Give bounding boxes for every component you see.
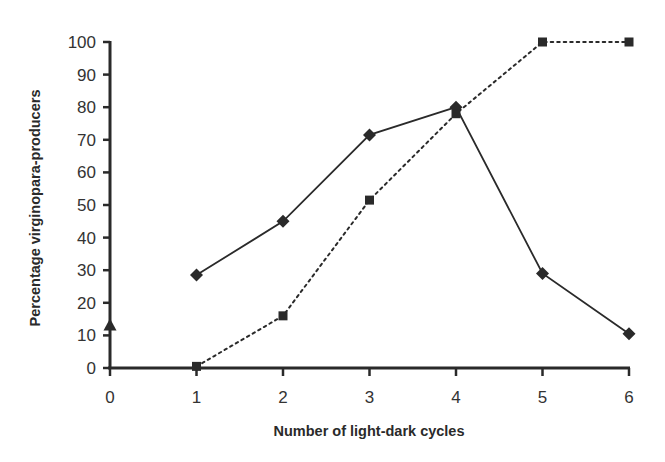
square-marker <box>365 196 374 205</box>
x-tick-label: 1 <box>192 388 201 407</box>
y-tick-label: 80 <box>77 98 96 117</box>
series-line <box>197 107 630 334</box>
series-square-dotted <box>192 38 634 371</box>
square-marker <box>538 38 547 47</box>
x-tick-label: 2 <box>278 388 287 407</box>
x-tick-label: 6 <box>624 388 633 407</box>
y-axis-ticks: 0102030405060708090100 <box>68 33 110 378</box>
diamond-marker <box>623 327 636 340</box>
x-tick-label: 3 <box>365 388 374 407</box>
y-tick-label: 90 <box>77 66 96 85</box>
y-tick-label: 10 <box>77 326 96 345</box>
x-tick-label: 0 <box>105 388 114 407</box>
y-tick-label: 20 <box>77 294 96 313</box>
y-tick-label: 70 <box>77 131 96 150</box>
diamond-marker <box>536 267 549 280</box>
square-marker <box>452 109 461 118</box>
triangle-marker <box>104 319 117 331</box>
square-marker <box>279 311 288 320</box>
series-line <box>197 42 630 366</box>
series-diamond-solid <box>190 101 636 341</box>
x-tick-label: 5 <box>538 388 547 407</box>
x-axis-ticks: 0123456 <box>105 368 633 407</box>
series-layer <box>104 38 636 371</box>
line-chart: 0102030405060708090100 0123456 Number of… <box>0 0 665 462</box>
x-tick-label: 4 <box>451 388 460 407</box>
y-tick-label: 50 <box>77 196 96 215</box>
square-marker <box>625 38 634 47</box>
y-axis-title: Percentage virginopara-producers <box>27 90 43 327</box>
y-tick-label: 40 <box>77 229 96 248</box>
x-axis-title: Number of light-dark cycles <box>274 423 465 439</box>
y-tick-label: 60 <box>77 163 96 182</box>
y-tick-label: 0 <box>87 359 96 378</box>
series-triangle-point <box>104 319 117 331</box>
square-marker <box>192 362 201 371</box>
y-tick-label: 30 <box>77 261 96 280</box>
y-tick-label: 100 <box>68 33 96 52</box>
diamond-marker <box>190 269 203 282</box>
